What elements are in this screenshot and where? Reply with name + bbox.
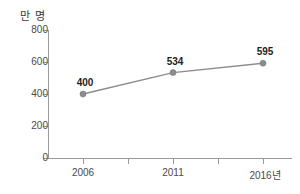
data-label-2006: 400: [77, 77, 94, 88]
data-point-marker: [260, 60, 266, 66]
data-point-marker: [80, 91, 86, 97]
data-point-marker: [170, 70, 176, 76]
series-plot: [0, 0, 300, 194]
data-label-2011: 534: [167, 56, 184, 67]
data-label-2016: 595: [257, 46, 274, 57]
line-chart: 만 명 800 600 400 200 0 2006 2011 2016년 40…: [0, 0, 300, 194]
series-line: [83, 63, 263, 94]
